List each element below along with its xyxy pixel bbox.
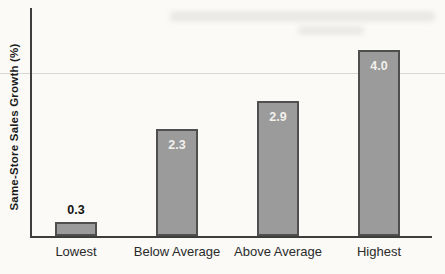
category-label: Lowest (21, 244, 131, 259)
y-axis-line (30, 8, 32, 238)
category-label: Above Average (223, 244, 333, 259)
bar-lowest (55, 222, 97, 236)
bar-value-label: 2.9 (248, 110, 308, 124)
bar-value-label: 4.0 (349, 59, 409, 73)
bar-value-label: 0.3 (46, 203, 106, 217)
bar-chart-figure: Same-Store Sales Growth (%) 0.3Lowest2.3… (0, 0, 445, 274)
x-axis-line (30, 236, 432, 238)
y-axis-title: Same-Store Sales Growth (%) (8, 43, 20, 210)
bar-highest (358, 50, 400, 236)
bar-value-label: 2.3 (147, 138, 207, 152)
category-label: Highest (324, 244, 434, 259)
category-label: Below Average (122, 244, 232, 259)
print-bleed-artifact (298, 26, 364, 35)
print-bleed-artifact (170, 11, 435, 22)
